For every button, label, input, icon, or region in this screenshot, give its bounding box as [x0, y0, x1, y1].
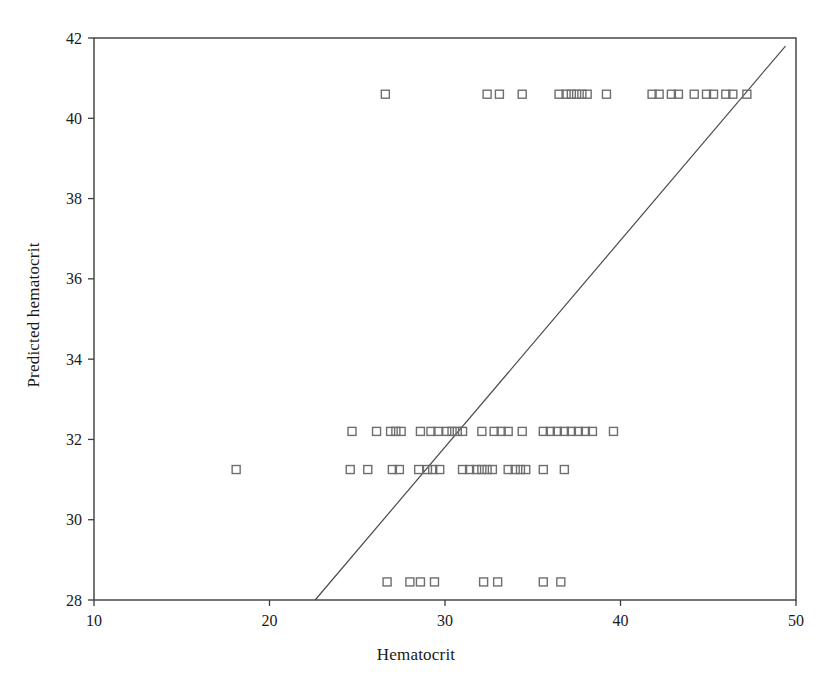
x-tick-label: 40	[613, 612, 629, 629]
y-tick-label: 28	[66, 592, 82, 609]
scatter-plot-figure: 10203040502830323436384042 Hematocrit Pr…	[0, 0, 832, 679]
y-tick-label: 32	[66, 431, 82, 448]
x-tick-label: 50	[788, 612, 804, 629]
plot-frame	[94, 38, 796, 600]
x-tick-label: 20	[262, 612, 278, 629]
y-tick-label: 42	[66, 30, 82, 47]
y-tick-label: 40	[66, 110, 82, 127]
y-tick-label: 38	[66, 190, 82, 207]
y-tick-label: 30	[66, 511, 82, 528]
y-tick-label: 36	[66, 270, 82, 287]
x-tick-label: 30	[437, 612, 453, 629]
x-axis-title: Hematocrit	[0, 645, 832, 665]
x-tick-label: 10	[86, 612, 102, 629]
y-tick-label: 34	[66, 351, 82, 368]
plot-canvas: 10203040502830323436384042	[0, 0, 832, 679]
